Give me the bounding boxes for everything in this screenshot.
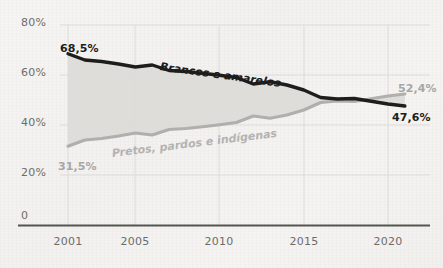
x-tick-label-2001: 2001 [48,235,88,248]
annotation-value-31-5: 31,5% [58,160,97,173]
annotation-value-68-5: 68,5% [60,42,99,55]
annotation-value-52-4: 52,4% [398,82,437,95]
x-tick-label-2010: 2010 [199,235,239,248]
y-tick-label-0: 0 [21,209,28,222]
x-tick-label-2005: 2005 [115,235,155,248]
chart-container: 80% 60% 40% 20% 0 2001 2005 2010 2015 20… [0,0,443,268]
x-tick-label-2020: 2020 [368,235,408,248]
annotation-value-47-6: 47,6% [392,111,431,124]
y-tick-label-40: 40% [21,116,46,129]
y-tick-label-20: 20% [21,166,46,179]
y-tick-label-60: 60% [21,66,46,79]
y-tick-label-80: 80% [21,16,46,29]
x-tick-label-2015: 2015 [284,235,324,248]
